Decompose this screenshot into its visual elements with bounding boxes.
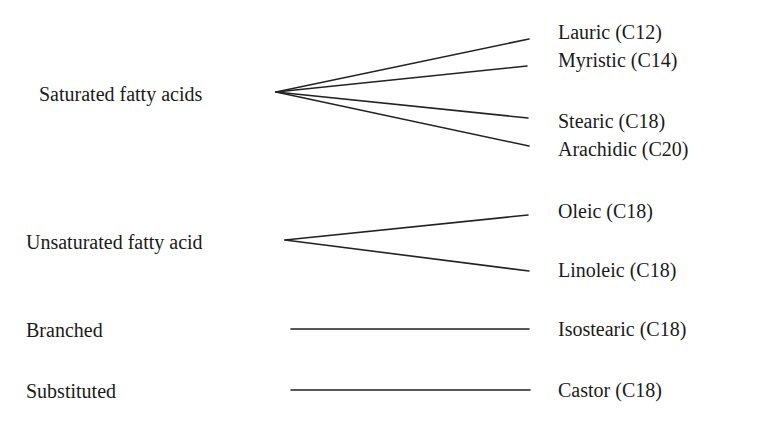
category-unsaturated: Unsaturated fatty acid	[26, 231, 203, 253]
acid-lauric: Lauric (C12)	[558, 21, 662, 43]
category-saturated: Saturated fatty acids	[39, 83, 202, 105]
acid-arachidic: Arachidic (C20)	[558, 138, 689, 160]
acid-stearic: Stearic (C18)	[558, 110, 665, 132]
acid-linoleic: Linoleic (C18)	[558, 259, 676, 281]
connector-unsaturated-linoleic	[285, 240, 529, 271]
fatty-acid-classification-diagram: Saturated fatty acids Unsaturated fatty …	[0, 0, 761, 425]
acid-castor: Castor (C18)	[558, 379, 662, 401]
connector-unsaturated-oleic	[285, 215, 528, 240]
connector-saturated-lauric	[276, 39, 529, 92]
acid-oleic: Oleic (C18)	[558, 200, 653, 222]
category-substituted: Substituted	[26, 380, 116, 402]
acid-myristic: Myristic (C14)	[558, 49, 677, 71]
connector-saturated-myristic	[276, 66, 527, 92]
connector-saturated-arachidic	[276, 92, 529, 146]
acid-isostearic: Isostearic (C18)	[558, 318, 686, 340]
category-branched: Branched	[26, 319, 103, 341]
connector-saturated-stearic	[276, 92, 528, 118]
